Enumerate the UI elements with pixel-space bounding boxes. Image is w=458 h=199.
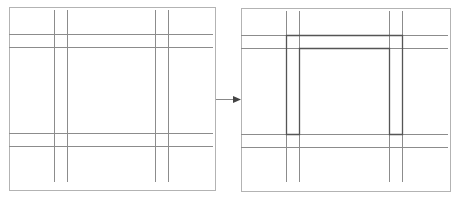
transform-arrow (216, 96, 241, 103)
panel-before (9, 8, 216, 191)
panel-after (241, 9, 451, 192)
diagram-canvas (0, 0, 458, 199)
arrow-head-icon (233, 96, 241, 103)
highlighted-frame-shape (287, 36, 403, 135)
